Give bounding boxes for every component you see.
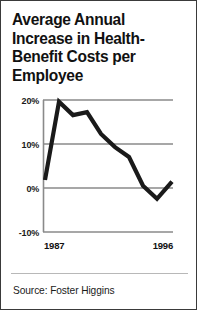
y-tick-label-10: 10% (22, 140, 40, 150)
title-block: Average Annual Increase in Health- Benef… (12, 10, 188, 84)
y-tick-label-neg10: -10% (19, 228, 39, 238)
chart-plot-area: 20% 10% 0% -10% 1987 1996 (1, 87, 197, 269)
gridlines (43, 100, 173, 232)
x-tick-label-end: 1996 (153, 240, 173, 251)
x-tick-label-start: 1987 (44, 240, 64, 251)
chart-figure: Average Annual Increase in Health- Benef… (0, 0, 197, 310)
line-chart-svg: 20% 10% 0% -10% 1987 1996 (1, 87, 197, 269)
data-line-health-benefit-costs (45, 102, 172, 199)
footer-divider (11, 273, 188, 274)
y-tick-label-20: 20% (22, 96, 40, 106)
source-note: Source: Foster Higgins (13, 284, 183, 296)
y-tick-label-0: 0% (26, 184, 39, 194)
page-title: Average Annual Increase in Health- Benef… (12, 10, 177, 84)
